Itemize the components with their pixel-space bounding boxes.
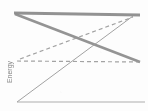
line-chart-plot bbox=[0, 0, 148, 111]
series-group bbox=[14, 13, 145, 102]
series-line-top-bold-horizontal bbox=[14, 13, 140, 15]
series-line-thin-ascending bbox=[17, 16, 133, 102]
chart-figure: Energy bbox=[0, 0, 148, 111]
series-line-dashed-horizontal bbox=[17, 61, 140, 62]
